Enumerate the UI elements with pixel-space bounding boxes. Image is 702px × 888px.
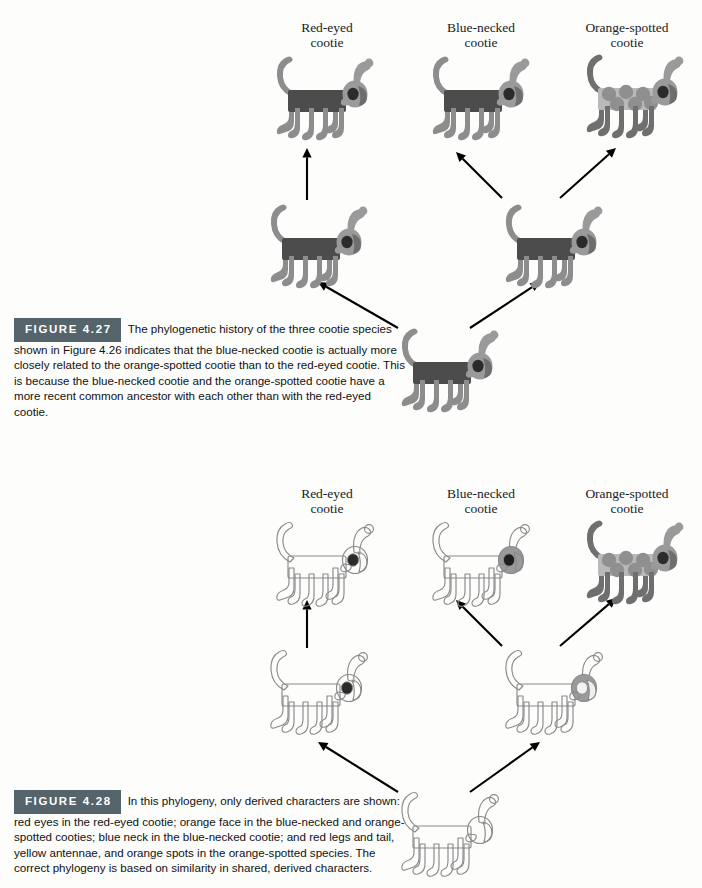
- cootie-tip-orange-spotted: [578, 514, 688, 618]
- arrow-right-to-orange: [560, 598, 616, 646]
- cootie-illustration: [424, 516, 534, 616]
- cootie-ancestor-right: [497, 644, 607, 748]
- figure-4-28-tag: FIGURE 4.28: [14, 790, 121, 814]
- cootie-illustration: [578, 48, 688, 148]
- cootie-root-ancestor: [393, 786, 503, 888]
- arrow-left-to-red-eyed: [302, 148, 311, 200]
- cootie-illustration: [268, 50, 378, 150]
- tip-label-line2: cootie: [406, 501, 556, 516]
- tip-label-blue-necked: Blue-neckedcootie: [406, 486, 556, 516]
- cootie-illustration: [497, 198, 607, 298]
- tip-label-line1: Blue-necked: [406, 20, 556, 35]
- figure-4-27-tag: FIGURE 4.27: [14, 318, 121, 342]
- cootie-root-ancestor: [393, 322, 503, 426]
- cootie-tip-blue-necked: [424, 50, 534, 154]
- tip-label-line1: Red-eyed: [252, 20, 402, 35]
- arrow-right-to-blue-necked: [456, 600, 502, 646]
- cootie-illustration: [393, 786, 503, 886]
- cootie-tip-blue-necked: [424, 516, 534, 620]
- arrow-root-to-left: [318, 742, 398, 792]
- tip-label-orange-spotted: Orange-spottedcootie: [552, 486, 702, 516]
- tip-label-line1: Orange-spotted: [552, 486, 702, 501]
- tip-label-line1: Orange-spotted: [552, 20, 702, 35]
- tip-label-line1: Red-eyed: [252, 486, 402, 501]
- cootie-ancestor-left: [262, 644, 372, 748]
- cootie-ancestor-right: [497, 198, 607, 302]
- tip-label-line1: Blue-necked: [406, 486, 556, 501]
- cootie-tip-red-eyed: [268, 516, 378, 620]
- tip-label-line2: cootie: [252, 501, 402, 516]
- cootie-illustration: [268, 516, 378, 616]
- cootie-illustration: [424, 50, 534, 150]
- tip-label-red-eyed: Red-eyedcootie: [252, 486, 402, 516]
- cootie-illustration: [393, 322, 503, 422]
- cootie-tip-orange-spotted: [578, 48, 688, 152]
- cootie-illustration: [497, 644, 607, 744]
- tip-label-line2: cootie: [552, 501, 702, 516]
- tip-label-line2: cootie: [252, 35, 402, 50]
- arrow-left-to-red-eyed: [302, 600, 311, 648]
- tip-label-orange-spotted: Orange-spottedcootie: [552, 20, 702, 50]
- tip-label-blue-necked: Blue-neckedcootie: [406, 20, 556, 50]
- cootie-ancestor-left: [262, 198, 372, 302]
- figure-4-28-caption: FIGURE 4.28In this phylogeny, only deriv…: [14, 790, 406, 876]
- arrow-root-to-right: [470, 742, 540, 792]
- cootie-illustration: [262, 644, 372, 744]
- cootie-illustration: [578, 514, 688, 614]
- tip-label-red-eyed: Red-eyedcootie: [252, 20, 402, 50]
- arrow-right-to-orange: [560, 148, 616, 198]
- arrow-right-to-blue-necked: [456, 152, 502, 198]
- figure-4-27-caption: FIGURE 4.27The phylogenetic history of t…: [14, 318, 406, 420]
- cootie-tip-red-eyed: [268, 50, 378, 154]
- tip-label-line2: cootie: [406, 35, 556, 50]
- cootie-illustration: [262, 198, 372, 298]
